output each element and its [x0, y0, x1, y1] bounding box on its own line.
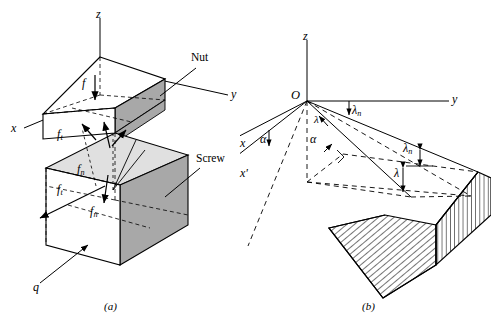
- angle-lambda-n-right-subscript: n: [408, 147, 412, 156]
- angle-alpha-center-label: α: [310, 133, 316, 145]
- panel-a-caption: (a): [104, 300, 117, 312]
- force-fn-upper-label: fn: [77, 163, 85, 177]
- force-ft-upper-label: ft: [57, 128, 63, 142]
- angle-lambda-n-top-label: λn: [352, 104, 361, 118]
- force-f-label: f: [82, 77, 85, 89]
- force-ft-upper-subscript: t: [60, 133, 62, 142]
- panel-b-xprime-axis: [240, 101, 307, 166]
- q-label: q: [33, 281, 39, 293]
- angle-alpha-left-label: α: [260, 133, 266, 145]
- panel-a-axis-label-x: x: [11, 122, 16, 134]
- panel-b-origin-label: O: [291, 89, 300, 102]
- figure-root: z y x Nut Screw f ft fn ft fn q (a): [0, 0, 491, 326]
- nut-label: Nut: [191, 52, 208, 64]
- force-fn-lower-subscript: n: [93, 210, 97, 219]
- angle-alpha-center-arrow: [324, 144, 332, 152]
- angle-lambda-center-arrow: [319, 116, 328, 126]
- angle-lambda-n-top-subscript: n: [357, 109, 361, 118]
- screw-label: Screw: [196, 153, 225, 165]
- force-fn-lower-label: fn: [90, 205, 98, 219]
- angle-lambda-n-right-label: λn: [403, 142, 412, 156]
- panel-b-vertical-hatched-face: [436, 172, 491, 265]
- panel-b-caption: (b): [362, 300, 375, 312]
- panel-a-drawing: [0, 0, 250, 300]
- panel-b-axis-label-x-prime: x': [240, 167, 248, 179]
- panel-b-axis-label-x: x: [240, 137, 245, 149]
- force-ft-lower-subscript: t: [60, 188, 62, 197]
- panel-a-axis-label-z: z: [96, 8, 101, 20]
- force-fn-upper-subscript: n: [80, 168, 84, 177]
- force-ft-lower-label: ft: [57, 183, 63, 197]
- angle-lambda-right-label: λ: [394, 167, 399, 179]
- panel-b-drawing: [240, 0, 491, 300]
- panel-b-axis-label-y: y: [452, 93, 457, 105]
- panel-b-axis-label-z: z: [303, 30, 308, 42]
- screw-block: [46, 133, 188, 265]
- q-leader-line: [40, 245, 88, 283]
- panel-b-ray-lambda-n: [307, 101, 478, 172]
- panel-a-axis-label-y: y: [231, 88, 236, 100]
- panel-b-diagonal-hatched-face: [329, 215, 436, 298]
- angle-lambda-center-label: λ: [314, 114, 319, 125]
- panel-b-x-axis: [240, 101, 307, 144]
